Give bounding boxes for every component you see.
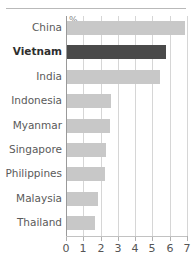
bar-row: Indonesia (0, 89, 192, 113)
category-label-philippines: Philippines (0, 166, 62, 180)
bar-row: Thailand (0, 211, 192, 235)
tickmark-7 (187, 236, 188, 241)
bar-row: Philippines (0, 162, 192, 186)
bar-thailand (67, 216, 95, 230)
bar-row: India (0, 65, 192, 89)
x-axis-line (66, 236, 187, 237)
category-label-singapore: Singapore (0, 142, 62, 156)
category-label-indonesia: Indonesia (0, 93, 62, 107)
category-label-vietnam: Vietnam (0, 44, 62, 58)
bar-vietnam (67, 45, 166, 59)
bar-row: China (0, 16, 192, 40)
bar-row: Myanmar (0, 114, 192, 138)
bar-row: Malaysia (0, 187, 192, 211)
bar-row: Vietnam (0, 40, 192, 64)
category-label-thailand: Thailand (0, 215, 62, 229)
bar-india (67, 70, 160, 84)
bar-indonesia (67, 94, 111, 108)
bar-rows: ChinaVietnamIndiaIndonesiaMyanmarSingapo… (0, 16, 192, 236)
bar-myanmar (67, 119, 110, 133)
x-tick-label-7: 7 (177, 242, 192, 256)
bar-row: Singapore (0, 138, 192, 162)
x-tick-label-5: 5 (142, 242, 162, 256)
x-axis-tick-labels: 01234567 (0, 242, 192, 258)
bar-philippines (67, 167, 105, 181)
category-label-china: China (0, 20, 62, 34)
bar-china (67, 21, 185, 35)
bar-malaysia (67, 192, 98, 206)
x-tick-label-1: 1 (73, 242, 93, 256)
plot-area: % ChinaVietnamIndiaIndonesiaMyanmarSinga… (0, 0, 192, 264)
category-label-india: India (0, 69, 62, 83)
bar-singapore (67, 143, 106, 157)
category-label-myanmar: Myanmar (0, 118, 62, 132)
category-label-malaysia: Malaysia (0, 191, 62, 205)
bar-chart: % ChinaVietnamIndiaIndonesiaMyanmarSinga… (0, 0, 192, 264)
